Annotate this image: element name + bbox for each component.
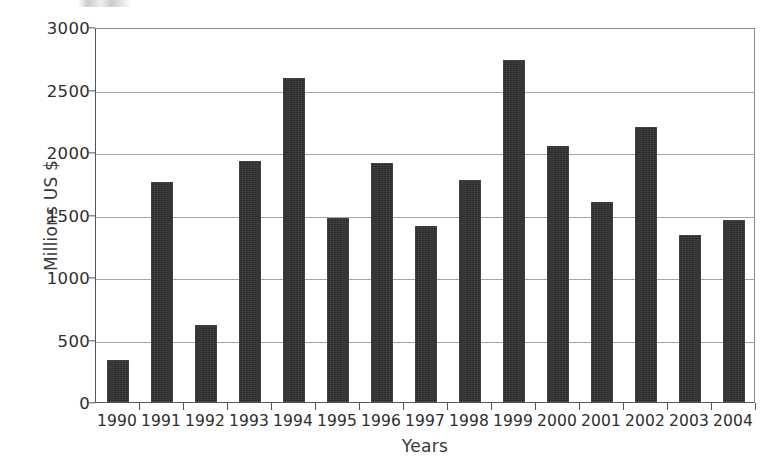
- y-axis-tick-mark: [88, 152, 95, 153]
- bar: [371, 163, 393, 402]
- bar: [459, 180, 481, 402]
- plot-area: [95, 28, 755, 403]
- y-axis-tick-mark: [88, 277, 95, 278]
- bar: [635, 127, 657, 402]
- y-axis-tick-mark: [88, 402, 95, 403]
- x-axis-tick-mark: [183, 403, 184, 410]
- x-axis-tick-mark: [623, 403, 624, 410]
- y-axis-tick-label: 3000: [20, 19, 90, 38]
- bar: [195, 325, 217, 402]
- x-axis-tick-mark: [139, 403, 140, 410]
- bar: [503, 60, 525, 403]
- x-axis-tick-mark: [491, 403, 492, 410]
- x-axis-tick-mark: [271, 403, 272, 410]
- bar: [239, 161, 261, 402]
- x-axis-title: Years: [95, 436, 755, 456]
- x-axis-tick-mark: [667, 403, 668, 410]
- bar: [679, 235, 701, 403]
- bar-chart-figure: Millions US $ 050010001500200025003000 1…: [0, 0, 774, 467]
- x-axis-tick-mark: [359, 403, 360, 410]
- bar: [415, 226, 437, 402]
- bar: [327, 218, 349, 402]
- y-axis-tick-mark: [88, 90, 95, 91]
- x-axis-tick-mark: [579, 403, 580, 410]
- x-axis-tick-mark: [227, 403, 228, 410]
- y-axis-tick-label: 1000: [20, 269, 90, 288]
- bar: [723, 220, 745, 402]
- y-axis-tick-mark: [88, 27, 95, 28]
- x-axis-tick-mark: [755, 403, 756, 410]
- y-axis-tick-label: 500: [20, 331, 90, 350]
- bar: [283, 78, 305, 402]
- bar: [547, 146, 569, 402]
- y-axis-tick-label: 2000: [20, 144, 90, 163]
- y-axis-tick-mark: [88, 215, 95, 216]
- scan-artifact: [78, 0, 132, 7]
- gridline: [96, 92, 754, 93]
- y-axis-tick-label: 0: [20, 394, 90, 413]
- x-axis-tick-mark: [403, 403, 404, 410]
- x-axis-tick-mark: [447, 403, 448, 410]
- bar: [591, 202, 613, 402]
- x-axis-tick-mark: [711, 403, 712, 410]
- x-axis-tick-mark: [315, 403, 316, 410]
- bar: [151, 182, 173, 402]
- bar: [107, 360, 129, 403]
- y-axis-tick-label: 1500: [20, 206, 90, 225]
- y-axis-tick-mark: [88, 340, 95, 341]
- x-axis-tick-mark: [535, 403, 536, 410]
- x-axis-tick-label: 2004: [707, 412, 759, 430]
- y-axis-tick-label: 2500: [20, 81, 90, 100]
